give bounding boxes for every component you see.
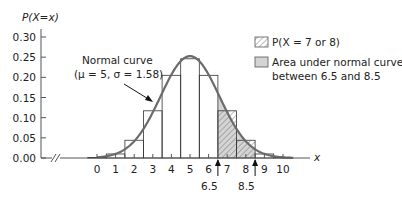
curve-label-line1: Normal curve: [82, 54, 153, 66]
y-tick-label: 0.25: [13, 51, 36, 63]
y-tick-label: 0.00: [13, 152, 36, 164]
legend-hatched-label: P(X = 7 or 8): [272, 36, 340, 48]
binomial-normal-approx-chart: 0.000.050.100.150.200.250.30012345678910…: [0, 0, 402, 203]
histogram-bar-3: [144, 111, 163, 158]
legend-hatched-swatch: [255, 37, 268, 47]
x-tick-label: 2: [131, 163, 138, 175]
y-tick-label: 0.20: [13, 71, 36, 83]
x-tick-label: 5: [187, 163, 194, 175]
x-tick-label: 4: [168, 163, 175, 175]
y-tick-label: 0.15: [13, 92, 36, 104]
legend-gray-label-line1: Area under normal curve: [272, 56, 402, 68]
marker-right-label: 8.5: [238, 180, 255, 192]
y-axis-label: P(X=x): [22, 11, 59, 23]
x-tick-label: 10: [276, 163, 289, 175]
curve-label-arrow: [124, 84, 150, 100]
histogram-bar-5: [181, 59, 200, 158]
legend-gray-swatch: [255, 57, 268, 67]
x-axis-label: x: [313, 151, 321, 163]
labels: P(X=x) x Normal curve (μ = 5, σ = 1.58) …: [22, 11, 402, 192]
x-tick-label: 1: [112, 163, 119, 175]
marker-left-label: 6.5: [201, 180, 218, 192]
x-tick-label: 9: [261, 163, 268, 175]
y-tick-label: 0.10: [13, 112, 36, 124]
x-tick-label: 0: [94, 163, 101, 175]
y-tick-label: 0.30: [13, 31, 36, 43]
x-tick-label: 8: [242, 163, 249, 175]
x-tick-label: 6: [205, 163, 212, 175]
y-tick-label: 0.05: [13, 132, 36, 144]
x-tick-label: 3: [149, 163, 156, 175]
x-tick-label: 7: [224, 163, 231, 175]
legend-gray-label-line2: between 6.5 and 8.5: [272, 70, 381, 82]
curve-label-line2: (μ = 5, σ = 1.58): [74, 68, 163, 80]
